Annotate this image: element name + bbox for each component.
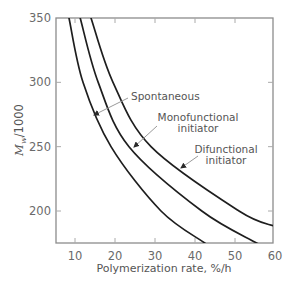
polymer-chart: 10 20 30 40 50 60 200 250 300 350 Polyme… [0, 0, 292, 285]
y-tick-350: 350 [29, 11, 51, 25]
arrow-icon [94, 98, 128, 115]
y-axis-label-rest: /1000 [12, 104, 26, 137]
curves [67, 11, 280, 248]
curve-monofunctional-initiator [78, 11, 265, 248]
y-tick-200: 200 [29, 204, 51, 218]
annotation-difunctional: Difunctional initiator [181, 143, 258, 168]
y-tick-labels: 200 250 300 350 [29, 11, 51, 218]
x-tick-10: 10 [68, 249, 83, 263]
y-axis-label: Mw/1000 [12, 104, 28, 157]
arrow-icon [181, 156, 198, 168]
x-tick-40: 40 [188, 249, 203, 263]
annotation-monofunctional-label-2: initiator [178, 122, 219, 134]
annotation-difunctional-label-2: initiator [206, 154, 247, 166]
y-tick-300: 300 [29, 75, 51, 89]
x-tick-60: 60 [268, 249, 283, 263]
x-tick-labels: 10 20 30 40 50 60 [68, 249, 283, 263]
x-tick-50: 50 [228, 249, 243, 263]
x-tick-20: 20 [108, 249, 123, 263]
x-axis-label: Polymerization rate, %/h [96, 262, 231, 275]
annotation-monofunctional: Monofunctional initiator [134, 111, 238, 147]
y-tick-250: 250 [29, 140, 51, 154]
x-tick-30: 30 [148, 249, 163, 263]
annotation-spontaneous-label: Spontaneous [131, 90, 200, 102]
